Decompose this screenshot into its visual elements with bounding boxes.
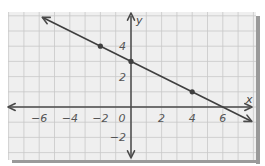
x-tick-label: 2 bbox=[158, 112, 165, 125]
y-tick-label: 4 bbox=[119, 40, 126, 53]
paper-shadow-right bbox=[256, 16, 260, 164]
coordinate-graph: −6−4−20246−224 x y bbox=[0, 0, 265, 166]
x-tick-label: 6 bbox=[219, 112, 226, 125]
y-tick-label: 2 bbox=[119, 71, 126, 84]
x-tick-label: 4 bbox=[189, 112, 196, 125]
x-tick-label: −6 bbox=[31, 112, 47, 125]
graph-paper bbox=[8, 12, 256, 160]
y-tick-label: −2 bbox=[110, 131, 126, 144]
data-point bbox=[190, 89, 195, 94]
y-axis-label: y bbox=[135, 14, 143, 27]
x-tick-label: 0 bbox=[119, 112, 126, 125]
paper-shadow-bottom bbox=[12, 160, 260, 163]
data-point bbox=[128, 59, 133, 64]
data-point bbox=[98, 44, 103, 49]
x-axis-label: x bbox=[245, 93, 253, 106]
x-tick-label: −2 bbox=[92, 112, 108, 125]
x-tick-label: −4 bbox=[62, 112, 78, 125]
